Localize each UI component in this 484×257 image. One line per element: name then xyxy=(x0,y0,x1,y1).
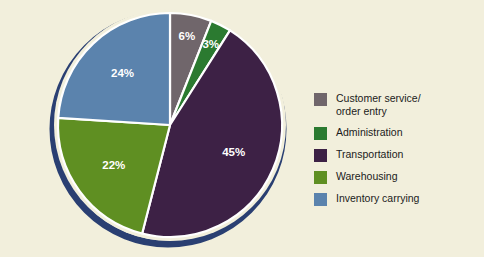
pie-chart-svg: 6%3%45%22%24% xyxy=(44,2,292,252)
legend-swatch-icon xyxy=(314,127,327,140)
pie-slice-value-label: 24% xyxy=(111,67,134,79)
legend-swatch-icon xyxy=(314,171,327,184)
legend-item-label: Transportation xyxy=(336,148,403,161)
chart-legend: Customer service/ order entryAdministrat… xyxy=(314,92,480,206)
pie-slice-value-label: 45% xyxy=(222,146,245,158)
pie-slice-value-label: 22% xyxy=(102,159,125,171)
pie-slices-group xyxy=(58,13,282,237)
legend-item[interactable]: Customer service/ order entry xyxy=(314,92,480,117)
chart-canvas: 6%3%45%22%24% Customer service/ order en… xyxy=(0,0,484,257)
legend-swatch-icon xyxy=(314,193,327,206)
legend-item[interactable]: Inventory carrying xyxy=(314,192,480,206)
legend-swatch-icon xyxy=(314,149,327,162)
pie-chart-area: 6%3%45%22%24% xyxy=(0,0,310,257)
legend-swatch-icon xyxy=(314,93,327,106)
legend-item[interactable]: Administration xyxy=(314,126,480,140)
legend-item-label: Inventory carrying xyxy=(336,192,419,205)
legend-item[interactable]: Transportation xyxy=(314,148,480,162)
legend-item-label: Warehousing xyxy=(336,170,397,183)
legend-item[interactable]: Warehousing xyxy=(314,170,480,184)
pie-slice-value-label: 6% xyxy=(178,30,195,42)
legend-item-label: Administration xyxy=(336,126,403,139)
pie-slice-value-label: 3% xyxy=(202,38,219,50)
legend-item-label: Customer service/ order entry xyxy=(336,92,421,117)
